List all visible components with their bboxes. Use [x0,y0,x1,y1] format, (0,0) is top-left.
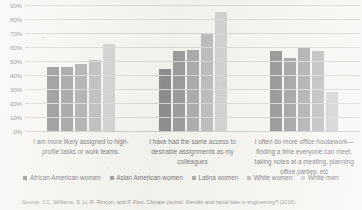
legend-item[interactable]: White women [247,174,292,181]
bar [284,58,296,131]
bar [173,51,185,131]
y-axis-tick-label: 20% [10,100,22,107]
gridlines-and-bars [25,0,360,137]
bar [61,67,73,131]
grouped-bar-chart: 0%10%20%30%40%50%60%70%80%90% I am more … [0,0,362,210]
bar [47,67,59,131]
gridline [25,19,360,20]
bar [75,64,87,131]
legend-swatch-icon [301,176,305,180]
y-axis-tick-label: 40% [10,72,22,79]
bar [326,92,338,131]
gridline [25,33,360,34]
chart-legend: African American womenAsian American wom… [0,174,362,181]
legend-item[interactable]: White men [301,174,338,181]
legend-item[interactable]: Asian American women [110,174,183,181]
y-axis-tick-label: 80% [10,16,22,23]
gridline [25,89,360,90]
y-axis-tick-label: 10% [10,114,22,121]
axis-baseline [25,131,360,132]
bar [270,51,282,131]
plot-area: 0%10%20%30%40%50%60%70%80%90% [0,0,362,137]
gridline [25,47,360,48]
bar [312,51,324,131]
y-axis-tick-label: 0% [13,128,22,135]
category-labels: I am more likely assigned to high-profil… [25,137,360,177]
category-label: I often do more office housework—finding… [248,137,360,177]
gridline [25,117,360,118]
legend-swatch-icon [247,176,251,180]
legend-label: White men [308,174,339,181]
legend-swatch-icon [23,176,27,180]
category-label: I have had the same access to desirable … [137,137,249,177]
y-axis-tick-label: 90% [10,2,22,9]
legend-item[interactable]: African American women [23,174,100,181]
y-axis-tick-label: 60% [10,44,22,51]
source-citation: Source: J.C. Williams, S. Li, R. Rincon,… [22,199,354,206]
bar [159,69,171,131]
y-axis-tick-label: 50% [10,58,22,65]
y-axis-tick-label: 30% [10,86,22,93]
legend-swatch-icon [110,176,114,180]
gridline [25,5,360,6]
legend-swatch-icon [192,176,196,180]
bar [89,60,101,131]
legend-label: White women [254,174,293,181]
gridline [25,103,360,104]
gridline [25,61,360,62]
y-axis-tick-label: 70% [10,30,22,37]
legend-label: Asian American women [116,174,183,181]
legend-label: African American women [30,174,101,181]
y-axis: 0%10%20%30%40%50%60%70%80%90% [0,0,24,137]
bar [215,12,227,131]
legend-item[interactable]: Latina women [192,174,238,181]
legend-label: Latina women [198,174,238,181]
category-label: I am more likely assigned to high-profil… [25,137,137,177]
gridline [25,75,360,76]
